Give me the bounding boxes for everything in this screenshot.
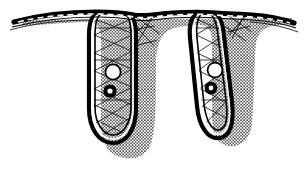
figure-canvas: Cross-section of surface epithelium with… (0, 0, 305, 173)
right-ring-body (205, 82, 218, 95)
right-vesicle (208, 63, 223, 78)
left-vesicle (105, 64, 120, 79)
left-ring-body (103, 84, 116, 97)
histology-cross-section-illustration (0, 0, 305, 173)
